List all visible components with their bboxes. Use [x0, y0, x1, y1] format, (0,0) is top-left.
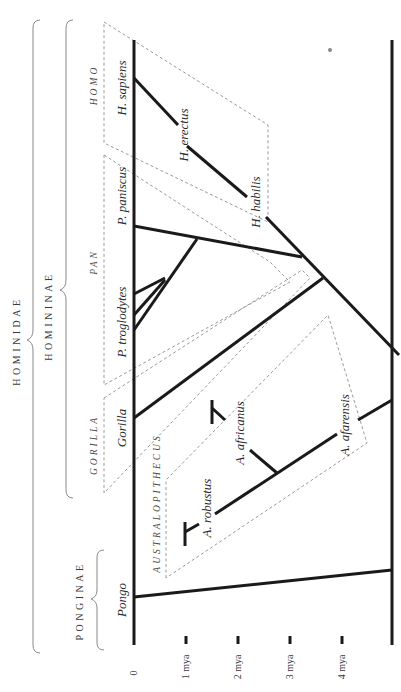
branch-p-paniscus — [134, 226, 302, 257]
label-a-africanus: A. africanus — [232, 401, 247, 466]
time-label-4: 4 mya — [336, 654, 347, 679]
time-label-1: 1 mya — [180, 654, 191, 679]
label-gorilla: Gorilla — [114, 408, 129, 447]
label-h-erectus: H. erectus — [176, 109, 191, 163]
phylogeny-diagram: HOMINIDAE HOMININAE PONGINAE HOMO PAN GO… — [0, 0, 401, 692]
label-genus-australopithecus: AUSTRALOPITHECUS — [152, 433, 162, 573]
label-p-troglodytes: P. troglodytes — [114, 287, 129, 359]
label-genus-pan: PAN — [89, 249, 99, 276]
branch-pongo — [134, 570, 392, 597]
branch-gorilla — [134, 278, 323, 418]
label-h-habilis: H. habilis — [248, 176, 263, 228]
time-label-2: 2 mya — [232, 654, 243, 679]
branch-h-erectus — [187, 146, 247, 197]
label-genus-homo: HOMO — [89, 65, 99, 107]
branch-h-sapiens — [134, 78, 178, 125]
brace-ponginae — [91, 550, 104, 650]
time-label-3: 3 mya — [284, 654, 295, 679]
branch-h-habilis — [266, 217, 399, 355]
label-p-paniscus: P. paniscus — [114, 167, 129, 226]
branch-a-africanus — [250, 450, 277, 473]
label-h-sapiens: H. sapiens — [114, 61, 129, 117]
time-label-0: 0 — [128, 671, 139, 676]
label-genus-gorilla: GORILLA — [89, 415, 99, 475]
branch-pan-stem — [134, 239, 197, 330]
label-homininae: HOMININAE — [43, 271, 54, 360]
brace-homininae — [60, 20, 73, 498]
branch-a-robustus-end — [185, 524, 199, 532]
label-pongo: Pongo — [114, 583, 129, 618]
stray-dot — [328, 48, 332, 52]
brace-hominidae — [27, 20, 40, 653]
label-ponginae: PONGINAE — [74, 561, 85, 640]
branch-a-afarensis — [358, 400, 392, 420]
branch-a-africanus-end — [212, 408, 225, 420]
label-a-afarensis: A. afarensis — [337, 394, 352, 457]
label-a-robustus: A. robustus — [199, 479, 214, 539]
label-hominidae: HOMINIDAE — [11, 296, 22, 385]
